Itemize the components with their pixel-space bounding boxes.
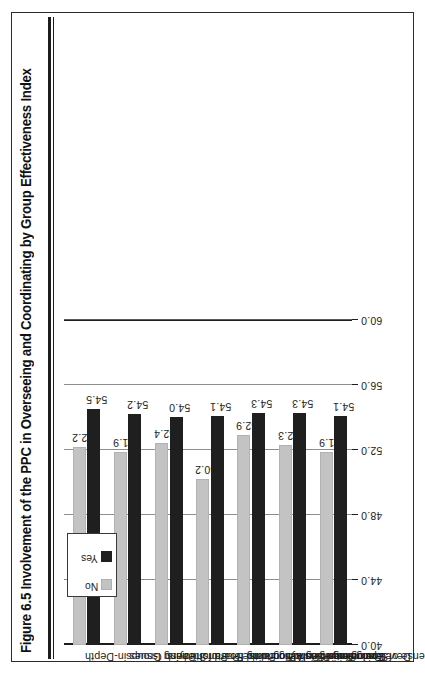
rotated-figure-stage: Figure 6.5 Involvement of the PPC in Ove… [12, 13, 415, 663]
bar-yes [170, 418, 183, 646]
legend-label-yes: Yes [81, 553, 98, 564]
gridline [64, 449, 352, 450]
gridline [64, 384, 352, 385]
bar-no [279, 445, 292, 645]
axis-tick-mark [352, 319, 358, 320]
bar-value-label: 54.0 [169, 403, 190, 415]
title-divider [48, 17, 51, 659]
bar-yes [293, 413, 306, 645]
axis-tick-mark [352, 644, 358, 645]
bar-yes [128, 414, 141, 645]
legend-label-no: No [85, 581, 98, 592]
page-title: Figure 6.5 Involvement of the PPC in Ove… [18, 68, 34, 653]
axis-tick-label: 44.0 [361, 575, 382, 587]
gridline [64, 319, 352, 320]
chart-legend[interactable]: No Yes [67, 533, 117, 597]
bar-no [320, 452, 333, 645]
bar-value-label: 54.5 [86, 394, 107, 406]
bar-yes [87, 409, 100, 645]
bar-yes [334, 416, 347, 645]
bar-yes [252, 413, 265, 645]
legend-entry-yes: Yes [73, 538, 113, 564]
title-divider-thin [53, 17, 54, 659]
bar-value-label: 54.2 [127, 399, 148, 411]
category-label: Developing a Parish Sense of Community [331, 651, 425, 663]
bar-no [155, 444, 168, 646]
bar-no [196, 479, 209, 645]
bar-value-label: 54.3 [292, 398, 313, 410]
axis-tick-mark [352, 514, 358, 515]
legend-entry-no: No [73, 566, 113, 592]
bar-no [237, 435, 250, 645]
legend-swatch-no [101, 579, 112, 590]
axis-tick-label: 56.0 [361, 380, 382, 392]
axis-tick-mark [352, 384, 358, 385]
plot-wrapper: 52.254.551.954.252.454.050.254.152.954.3… [56, 13, 415, 663]
title-block: Figure 6.5 Involvement of the PPC in Ove… [12, 13, 56, 663]
axis-outer-line [64, 320, 352, 321]
axis-tick-mark [352, 449, 358, 450]
bar-yes [211, 416, 224, 645]
bar-value-label: 54.1 [210, 401, 231, 413]
axis-tick-label: 52.0 [361, 445, 382, 457]
legend-swatch-yes [101, 551, 112, 562]
axis-tick-label: 40.0 [361, 640, 382, 652]
bar-value-label: 54.3 [251, 398, 272, 410]
axis-tick-mark [352, 579, 358, 580]
bar-value-label: 54.1 [333, 401, 354, 413]
axis-tick-label: 60.0 [361, 315, 382, 327]
axis-tick-label: 48.0 [361, 510, 382, 522]
figure-frame: Figure 6.5 Involvement of the PPC in Ove… [11, 12, 414, 662]
